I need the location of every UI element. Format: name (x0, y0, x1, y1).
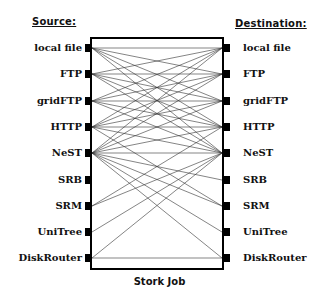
source-port-srb (85, 176, 92, 184)
destination-label-unitree: UniTree (243, 226, 288, 238)
source-label-ftp: FTP (2, 68, 82, 80)
source-port-diskrouter (85, 254, 92, 262)
source-port-gridftp (85, 97, 92, 105)
destination-label-diskrouter: DiskRouter (243, 252, 307, 264)
destination-label-srm: SRM (243, 200, 270, 212)
destination-port-srm (223, 202, 230, 210)
stork-job-box (91, 38, 223, 269)
destination-label-local-file: local file (243, 42, 291, 54)
destination-port-srb (223, 176, 230, 184)
destination-label-http: HTTP (243, 121, 275, 133)
source-label-http: HTTP (2, 121, 82, 133)
destination-label-ftp: FTP (243, 68, 265, 80)
destination-port-gridftp (223, 97, 230, 105)
destination-label-gridftp: gridFTP (243, 95, 288, 107)
source-port-srm (85, 202, 92, 210)
source-port-nest (85, 149, 92, 157)
source-label-local-file: local file (2, 42, 82, 54)
source-label-unitree: UniTree (2, 226, 82, 238)
destination-port-diskrouter (223, 254, 230, 262)
destination-label-srb: SRB (243, 174, 267, 186)
destination-port-unitree (223, 228, 230, 236)
stork-job-caption: Stork Job (0, 276, 319, 287)
source-port-ftp (85, 70, 92, 78)
source-port-local-file (85, 44, 92, 52)
destination-port-local-file (223, 44, 230, 52)
source-label-srm: SRM (2, 200, 82, 212)
source-port-unitree (85, 228, 92, 236)
source-port-http (85, 123, 92, 131)
source-label-gridftp: gridFTP (2, 95, 82, 107)
source-label-diskrouter: DiskRouter (2, 252, 82, 264)
destination-port-http (223, 123, 230, 131)
source-label-srb: SRB (2, 174, 82, 186)
destination-port-nest (223, 149, 230, 157)
source-label-nest: NeST (2, 147, 82, 159)
destination-port-ftp (223, 70, 230, 78)
destination-label-nest: NeST (243, 147, 273, 159)
